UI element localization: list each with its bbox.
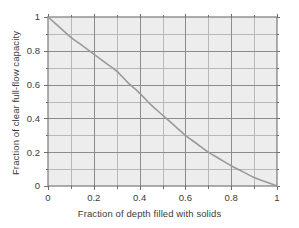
chart-figure: 00.20.40.60.81 00.20.40.60.81 Fraction o… [0,0,299,228]
x-axis-tick-labels: 00.20.40.60.81 [45,192,279,203]
y-tick-label: 1 [35,11,40,22]
y-tick-label: 0.2 [27,147,40,158]
y-tick-label: 0.6 [27,79,40,90]
y-tick-label: 0.8 [27,45,40,56]
y-axis-tick-labels: 00.20.40.60.81 [27,11,40,191]
x-tick-label: 0 [45,192,50,203]
x-tick-label: 1 [274,192,279,203]
chart-plot-area: 00.20.40.60.81 00.20.40.60.81 [0,0,299,228]
x-tick-label: 0.8 [225,192,238,203]
x-axis-label: Fraction of depth filled with solids [0,208,299,219]
x-tick-label: 0.6 [179,192,192,203]
y-tick-label: 0.4 [27,113,40,124]
y-tick-label: 0 [35,180,40,191]
x-tick-label: 0.2 [87,192,100,203]
y-axis-label: Fraction of clear full-flow capacity [10,16,21,190]
plot-background [48,17,277,186]
plot-background-group [48,17,277,186]
x-tick-label: 0.4 [133,192,146,203]
